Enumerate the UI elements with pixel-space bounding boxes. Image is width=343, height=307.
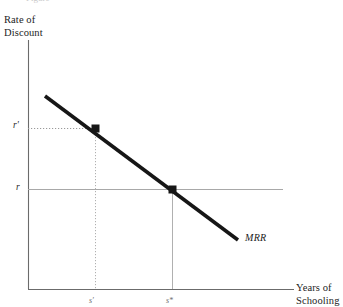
y-tick-label-r: r [16,182,20,192]
figure-container: Figure Rate of Discount Years of Schooli… [0,0,343,307]
x-tick-label-s-prime: s' [89,296,94,305]
data-point-marker-1 [92,125,100,133]
x-tick-label-s-star: s* [166,296,173,305]
mrr-curve [45,96,238,240]
mrr-curve-label: MRR [245,232,266,243]
y-axis-title: Rate of Discount [4,14,43,39]
chart-canvas [0,0,343,307]
y-tick-label-r-prime: r' [13,120,19,130]
data-point-marker-2 [169,186,177,194]
x-axis-title: Years of Schooling [296,282,340,307]
